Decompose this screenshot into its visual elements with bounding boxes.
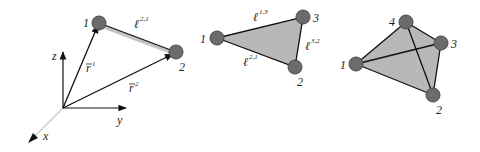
edge-3-2-label: ℓ 3,2 [305,37,320,53]
vector-r2 [63,54,173,108]
x-axis-label: x [42,129,49,143]
node-4 [399,15,413,29]
svg-text:ℓ: ℓ [134,17,139,31]
node-1 [210,31,224,45]
node-3-label: 3 [312,11,319,25]
node-2-label: 2 [297,75,303,89]
triangle-face [217,17,303,67]
vector-r1-label: r 1 [86,60,96,75]
svg-text:2: 2 [135,80,139,88]
z-axis-label: z [51,49,57,63]
svg-text:1,3: 1,3 [259,8,268,16]
node-1-label: 1 [83,16,89,30]
svg-text:ℓ: ℓ [305,39,310,53]
diagram-triangle: 1 2 3 ℓ 1,3 ℓ 3,2 ℓ 2,1 [200,8,320,89]
node-3 [434,36,448,50]
node-3-label: 3 [450,37,457,51]
svg-text:3,2: 3,2 [310,37,320,45]
node-2 [169,45,183,59]
tetra-face-outline [356,22,441,95]
edge-2-1-label: ℓ 2,1 [243,53,258,69]
svg-text:r: r [129,81,134,95]
node-2-label: 2 [436,103,442,117]
node-3 [296,10,310,24]
node-4-label: 4 [389,15,395,29]
svg-text:r: r [86,61,91,75]
node-1 [92,16,106,30]
y-axis-label: y [116,113,123,127]
svg-text:ℓ: ℓ [253,10,258,24]
node-1-label: 1 [200,32,206,46]
node-1 [349,57,363,71]
svg-text:1: 1 [92,60,96,68]
node-1-label: 1 [340,58,346,72]
edge-2-1-label: ℓ 2,1 [134,15,149,31]
diagram-two-particles: 1 2 z y x r 1 r 2 ℓ 2,1 [28,15,185,143]
svg-text:2,1: 2,1 [249,53,258,61]
diagram-tetrahedron: 1 2 3 4 [340,15,457,117]
svg-text:ℓ: ℓ [243,55,248,69]
node-2-label: 2 [179,60,185,74]
node-2 [426,88,440,102]
node-2 [288,60,302,74]
svg-text:2,1: 2,1 [140,15,149,23]
diagram-canvas: 1 2 z y x r 1 r 2 ℓ 2,1 1 2 3 ℓ [0,0,480,152]
vector-r2-label: r 2 [129,80,139,95]
edge-1-3-label: ℓ 1,3 [253,8,268,24]
